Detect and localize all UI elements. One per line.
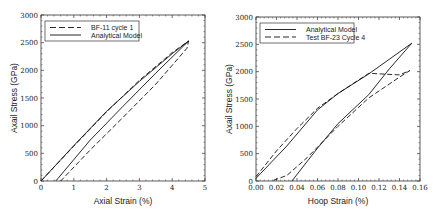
legend: Analytical ModelTest BF-23 Cycle 4 xyxy=(260,23,365,43)
x-tick-label: 0.10 xyxy=(351,184,367,192)
y-tick-label: 0 xyxy=(34,178,38,186)
y-tick-label: 2500 xyxy=(20,39,38,47)
x-tick-label: 0.16 xyxy=(412,184,428,192)
y-axis-title: Axail Stress (GPa) xyxy=(9,63,19,133)
x-tick-label: 0 xyxy=(39,184,43,192)
x-tick-label: 0.08 xyxy=(330,184,346,192)
x-axis-title: Hoop Strain (%) xyxy=(308,196,369,206)
chart-figure: 012345050010001500200025003000Axial Stra… xyxy=(0,0,436,220)
right-chart: 0.000.020.040.060.080.100.120.140.160500… xyxy=(224,14,428,207)
y-tick-label: 2000 xyxy=(20,67,38,75)
y-tick-label: 500 xyxy=(240,150,253,158)
x-tick-label: 0.12 xyxy=(371,184,387,192)
y-tick-label: 0 xyxy=(249,178,253,186)
y-tick-label: 1500 xyxy=(20,95,38,103)
x-axis-title: Axial Strain (%) xyxy=(94,196,153,206)
x-tick-label: 2 xyxy=(104,184,108,192)
y-tick-label: 500 xyxy=(25,150,38,158)
legend: BF-11 cycle 1Analytical Model xyxy=(45,21,142,41)
x-tick-label: 0.02 xyxy=(269,184,285,192)
x-tick-label: 0.14 xyxy=(392,184,408,192)
series-line xyxy=(256,71,410,181)
series-line xyxy=(41,41,189,181)
legend-label: Test BF-23 Cycle 4 xyxy=(306,34,365,42)
left-chart: 012345050010001500200025003000Axial Stra… xyxy=(9,12,207,207)
x-tick-label: 4 xyxy=(170,184,175,192)
y-tick-label: 2000 xyxy=(235,68,253,76)
series-line xyxy=(256,43,412,181)
x-tick-label: 0.04 xyxy=(289,184,305,192)
y-tick-label: 1000 xyxy=(20,122,38,130)
y-tick-label: 3000 xyxy=(235,14,253,22)
y-tick-label: 1500 xyxy=(235,96,253,104)
x-tick-label: 1 xyxy=(72,184,76,192)
y-tick-label: 3000 xyxy=(20,12,38,20)
legend-label: Analytical Model xyxy=(91,32,142,40)
y-axis-title: Axail Stress (GPa) xyxy=(224,64,234,134)
series-line xyxy=(41,41,189,181)
x-tick-label: 5 xyxy=(203,184,207,192)
x-tick-label: 3 xyxy=(137,184,141,192)
y-tick-label: 1000 xyxy=(235,123,253,131)
y-tick-label: 2500 xyxy=(235,41,253,49)
x-tick-label: 0.06 xyxy=(310,184,326,192)
